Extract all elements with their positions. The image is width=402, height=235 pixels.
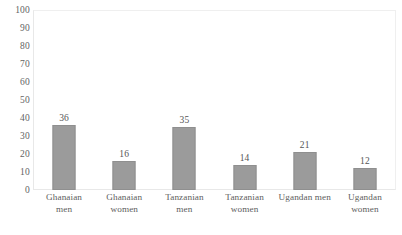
bar[interactable]: [353, 168, 376, 190]
y-axis-tick-label: 70: [0, 59, 30, 69]
bar[interactable]: [293, 152, 316, 190]
bars-container: 361635142112: [34, 10, 395, 190]
bar-value-label: 16: [119, 149, 129, 159]
bar[interactable]: [53, 125, 76, 190]
x-axis-category-label: Ugandanwomen: [335, 192, 395, 215]
y-axis-tick-label: 30: [0, 131, 30, 141]
y-axis-tick-label: 10: [0, 167, 30, 177]
x-axis: GhanaianmenGhanaianwomenTanzanianmenTanz…: [34, 192, 395, 232]
bar-chart: 1009080706050403020100 361635142112 Ghan…: [0, 0, 402, 235]
bar-group: 12: [335, 10, 395, 190]
x-axis-category-label: Tanzanianmen: [154, 192, 214, 215]
bar-group: 36: [34, 10, 94, 190]
x-axis-category-label-line: men: [154, 204, 214, 216]
y-axis-tick-label: 50: [0, 95, 30, 105]
y-axis-tick-label: 80: [0, 41, 30, 51]
x-axis-category-label-line: women: [215, 204, 275, 216]
y-axis-tick-label: 90: [0, 23, 30, 33]
bar-group: 21: [275, 10, 335, 190]
x-axis-category-label-line: Tanzanian: [154, 192, 214, 204]
bar[interactable]: [173, 127, 196, 190]
x-axis-category-label-line: Tanzanian: [215, 192, 275, 204]
bar[interactable]: [113, 161, 136, 190]
y-axis-tick-label: 40: [0, 113, 30, 123]
bar[interactable]: [233, 165, 256, 190]
x-axis-category-label-line: Ghanaian: [94, 192, 154, 204]
y-axis-tick-label: 0: [0, 185, 30, 195]
x-axis-category-label-line: Ugandan men: [275, 192, 335, 204]
bar-group: 35: [154, 10, 214, 190]
bar-value-label: 12: [360, 156, 370, 166]
x-axis-category-label-line: women: [335, 204, 395, 216]
bar-group: 14: [215, 10, 275, 190]
x-axis-category-label-line: women: [94, 204, 154, 216]
bar-group: 16: [94, 10, 154, 190]
x-axis-category-label-line: men: [34, 204, 94, 216]
bar-value-label: 21: [300, 140, 310, 150]
bar-value-label: 14: [240, 153, 250, 163]
y-axis-tick-label: 60: [0, 77, 30, 87]
y-axis: 1009080706050403020100: [0, 10, 30, 190]
x-axis-category-label: Ugandan men: [275, 192, 335, 204]
bar-value-label: 35: [179, 115, 189, 125]
x-axis-category-label-line: Ugandan: [335, 192, 395, 204]
x-axis-category-label: Tanzanianwomen: [215, 192, 275, 215]
x-axis-category-label-line: Ghanaian: [34, 192, 94, 204]
bar-value-label: 36: [59, 113, 69, 123]
y-axis-tick-label: 100: [0, 5, 30, 15]
x-axis-category-label: Ghanaianwomen: [94, 192, 154, 215]
x-axis-category-label: Ghanaianmen: [34, 192, 94, 215]
y-axis-tick-label: 20: [0, 149, 30, 159]
